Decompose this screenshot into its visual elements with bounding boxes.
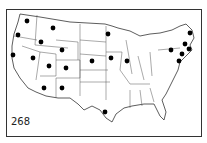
dot-ma [187, 47, 192, 52]
dot-ny [169, 48, 174, 53]
dot-tx [103, 110, 108, 115]
dot-ut [47, 64, 52, 69]
dot-co [64, 66, 69, 71]
dot-nj [177, 59, 182, 64]
dot-az [42, 86, 47, 91]
dot-ca [11, 53, 16, 58]
dot-ct [180, 52, 185, 57]
dot-wy [60, 48, 65, 53]
dot-ia [109, 56, 114, 61]
state-borders [14, 15, 180, 108]
dot-nh [183, 42, 188, 47]
dot-ne [90, 59, 95, 64]
dot-nm [60, 86, 65, 91]
dot-il [125, 59, 130, 64]
dot-id [39, 40, 44, 45]
us-outline [12, 14, 194, 122]
dot-nv [31, 56, 36, 61]
dot-wa [25, 19, 30, 24]
dot-mt [51, 26, 56, 31]
us-map [0, 0, 207, 143]
dot-me [188, 31, 193, 36]
map-label: 268 [11, 116, 30, 127]
dot-mn [106, 32, 111, 37]
dot-or [16, 33, 21, 38]
